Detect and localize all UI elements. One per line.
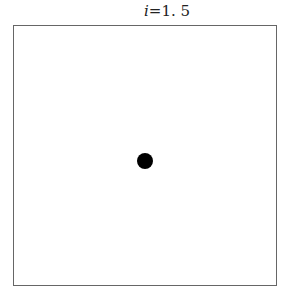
title-value: 1. 5 [161, 2, 190, 20]
particle-dot [137, 153, 153, 169]
figure-title: i=1. 5 [0, 2, 290, 20]
title-equals: = [149, 2, 162, 20]
